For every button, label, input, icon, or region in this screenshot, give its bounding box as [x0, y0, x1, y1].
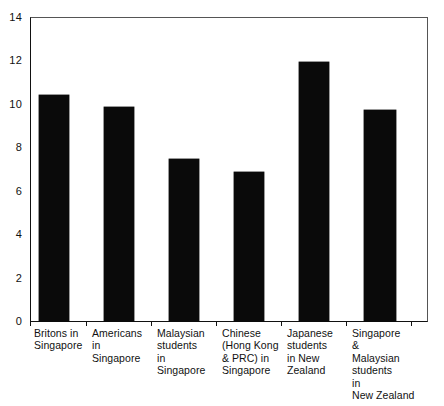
x-label-line: Singapore — [157, 364, 219, 376]
x-label-line: & PRC) in — [222, 352, 288, 364]
y-tick-label-8: 8 — [0, 142, 22, 153]
x-tick-mark-3 — [216, 321, 217, 326]
x-tick-mark-0 — [30, 321, 31, 326]
y-tick-label-10: 10 — [0, 99, 22, 110]
bar-chinese-in-singapore — [234, 172, 264, 321]
bar-britons-in-singapore — [39, 95, 69, 321]
y-tick-label-6: 6 — [0, 186, 22, 197]
y-tick-label-2: 2 — [0, 273, 22, 284]
x-label-line: Malaysian — [352, 352, 428, 364]
x-label-line: students — [157, 339, 219, 351]
x-tick-mark-4 — [281, 321, 282, 326]
x-label-malaysian-students-in-singapore: Malaysian students in Singapore — [157, 327, 219, 377]
x-label-line: in — [157, 352, 219, 364]
x-tick-mark-6 — [411, 321, 412, 326]
x-label-line: students — [352, 364, 428, 376]
x-label-line: Americans — [92, 327, 154, 339]
x-label-singapore-malaysian-students-in-new-zealand: Singapore & Malaysian students in New Ze… — [352, 327, 428, 401]
bar-americans-in-singapore — [104, 107, 134, 321]
x-label-japanese-students-in-new-zealand: Japanese students in New Zealand — [287, 327, 349, 377]
x-tick-mark-1 — [86, 321, 87, 326]
x-label-line: New Zealand — [352, 389, 428, 401]
x-label-line: Britons in — [34, 327, 96, 339]
bar-singapore-malaysian-students-in-new-zealand — [364, 110, 396, 321]
x-label-line: Zealand — [287, 364, 349, 376]
x-label-line: Malaysian — [157, 327, 219, 339]
x-label-line: in New — [287, 352, 349, 364]
x-label-line: & — [352, 339, 428, 351]
bar-malaysian-students-in-singapore — [169, 159, 199, 321]
bar-chart: 14 12 10 8 6 4 2 0 — [0, 0, 444, 406]
y-axis: 14 12 10 8 6 4 2 0 — [0, 0, 30, 340]
x-label-line: Singapore — [222, 364, 288, 376]
x-axis-labels: Britons in Singapore Americans in Singap… — [30, 327, 430, 406]
x-label-line: in — [352, 377, 428, 389]
x-label-line: Chinese — [222, 327, 288, 339]
bars-layer — [30, 17, 428, 321]
x-label-line: Singapore — [92, 352, 154, 364]
y-tick-label-12: 12 — [0, 55, 22, 66]
x-label-line: (Hong Kong — [222, 339, 288, 351]
x-label-chinese-in-singapore: Chinese (Hong Kong & PRC) in Singapore — [222, 327, 288, 377]
x-label-line: Japanese — [287, 327, 349, 339]
x-label-line: Singapore — [34, 339, 96, 351]
x-label-britons-in-singapore: Britons in Singapore — [34, 327, 96, 352]
x-tick-mark-2 — [151, 321, 152, 326]
y-tick-label-0: 0 — [0, 316, 22, 327]
y-tick-label-14: 14 — [0, 12, 22, 23]
y-tick-label-4: 4 — [0, 229, 22, 240]
x-label-line: in — [92, 339, 154, 351]
x-label-line: Singapore — [352, 327, 428, 339]
x-label-line: students — [287, 339, 349, 351]
bar-japanese-students-in-new-zealand — [299, 62, 329, 321]
x-label-americans-in-singapore: Americans in Singapore — [92, 327, 154, 364]
x-tick-mark-5 — [346, 321, 347, 326]
